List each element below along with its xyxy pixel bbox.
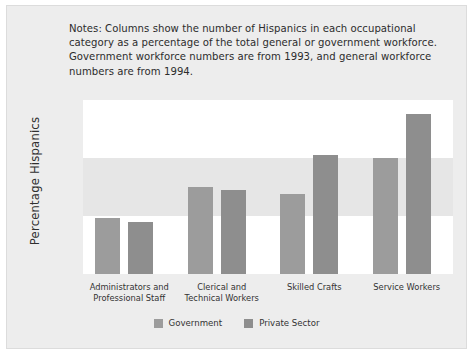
legend-label: Government (169, 318, 223, 328)
bar-private-sector[interactable] (221, 190, 246, 274)
bar-group (268, 100, 361, 274)
legend-label: Private Sector (259, 318, 319, 328)
chart-figure-card: Notes: Columns show the number of Hispan… (6, 5, 467, 349)
bar-private-sector[interactable] (313, 155, 338, 274)
bar-government[interactable] (280, 194, 305, 274)
category-label-line: Service Workers (349, 282, 465, 293)
legend-swatch-icon (244, 319, 253, 328)
category-label-line: Technical Workers (164, 293, 280, 304)
bar-government[interactable] (373, 158, 398, 274)
legend-item[interactable]: Private Sector (244, 318, 319, 328)
bar-private-sector[interactable] (128, 222, 153, 274)
y-axis-label: Percentage Hispanics (28, 117, 42, 245)
legend-item[interactable]: Government (154, 318, 223, 328)
legend-swatch-icon (154, 319, 163, 328)
bar-group (361, 100, 454, 274)
plot-area-wrapper: 051015 Administrators andProfessional St… (77, 94, 453, 276)
chart-legend: GovernmentPrivate Sector (7, 318, 466, 328)
bar-group (176, 100, 269, 274)
chart-notes: Notes: Columns show the number of Hispan… (69, 22, 439, 79)
bar-private-sector[interactable] (406, 114, 431, 274)
plot-area: 051015 (83, 100, 453, 274)
x-axis-category-label: Service Workers (349, 282, 465, 293)
bar-government[interactable] (95, 218, 120, 274)
bar-government[interactable] (188, 187, 213, 274)
bar-group (83, 100, 176, 274)
